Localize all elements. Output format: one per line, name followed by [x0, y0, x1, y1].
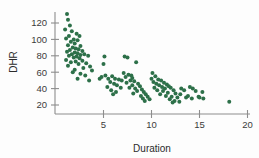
data-point — [102, 55, 106, 59]
data-point — [65, 50, 69, 54]
y-tick-label: 120 — [31, 17, 47, 28]
data-point — [124, 75, 128, 79]
data-point — [83, 73, 87, 77]
data-point — [125, 81, 129, 85]
data-point — [227, 100, 231, 104]
data-point — [174, 92, 178, 96]
chart-canvas: 20406080100120 5101520 Duration DHR — [0, 0, 259, 158]
data-point — [86, 54, 90, 58]
data-point — [108, 80, 112, 84]
data-point — [69, 60, 73, 64]
y-tick-label: 60 — [36, 67, 47, 78]
data-point — [122, 71, 126, 75]
data-point — [77, 62, 81, 66]
data-point — [77, 47, 81, 51]
data-point — [186, 94, 190, 98]
data-point — [68, 23, 72, 27]
data-point — [175, 96, 179, 100]
data-point — [66, 64, 70, 68]
data-point — [155, 88, 159, 92]
data-point — [150, 71, 154, 75]
data-point — [81, 66, 85, 70]
data-point — [198, 96, 202, 100]
data-point — [66, 18, 70, 22]
data-point — [90, 69, 94, 73]
data-point — [82, 52, 86, 56]
data-point — [100, 75, 104, 79]
data-point — [120, 78, 124, 82]
data-point — [168, 97, 172, 101]
scatter-chart: 20406080100120 5101520 Duration DHR — [0, 0, 259, 158]
data-point — [76, 38, 80, 42]
data-point — [78, 72, 82, 76]
y-tick-label: 100 — [31, 34, 47, 45]
data-point — [67, 54, 71, 58]
data-point — [201, 96, 205, 100]
data-point — [105, 85, 109, 89]
y-tick-label: 20 — [36, 99, 47, 110]
x-tick-label: 10 — [146, 119, 157, 130]
data-point — [115, 83, 119, 87]
data-point — [76, 77, 80, 81]
data-point — [119, 86, 123, 90]
data-point — [111, 92, 115, 96]
data-point — [126, 55, 130, 59]
data-point — [148, 97, 152, 101]
data-point — [158, 92, 162, 96]
data-point — [194, 89, 198, 93]
data-point — [177, 100, 181, 104]
data-point — [102, 62, 106, 66]
data-point — [134, 60, 138, 64]
data-point — [161, 89, 165, 93]
data-point — [88, 64, 92, 68]
data-point — [80, 59, 84, 63]
y-axis-title: DHR — [8, 51, 19, 73]
data-point — [178, 92, 182, 96]
data-point — [200, 90, 204, 94]
data-point — [127, 86, 131, 90]
data-point — [70, 29, 74, 33]
data-point — [64, 37, 68, 41]
data-point — [131, 92, 135, 96]
data-point — [135, 89, 139, 93]
x-tick-label: 20 — [242, 119, 253, 130]
data-point — [66, 43, 70, 47]
data-point — [63, 28, 67, 32]
data-point — [171, 101, 175, 105]
data-point — [153, 74, 157, 78]
data-point — [71, 70, 75, 74]
data-point — [73, 42, 77, 46]
data-point — [128, 78, 132, 82]
data-point — [69, 40, 73, 44]
data-point — [78, 34, 82, 38]
data-point — [164, 94, 168, 98]
data-point — [65, 12, 69, 16]
data-point — [190, 96, 194, 100]
data-point — [109, 88, 113, 92]
data-point — [143, 99, 147, 103]
data-point — [113, 77, 117, 81]
data-point — [87, 78, 91, 82]
y-tick-label: 80 — [36, 50, 47, 61]
data-point — [84, 61, 88, 65]
data-point — [132, 79, 136, 83]
data-point — [103, 73, 107, 77]
y-tick-label: 40 — [36, 83, 47, 94]
x-tick-label: 5 — [101, 119, 106, 130]
x-tick-label: 15 — [194, 119, 205, 130]
data-point — [182, 88, 186, 92]
data-points-layer — [63, 12, 231, 105]
x-axis-ticks: 5101520 — [101, 110, 253, 130]
data-point — [64, 58, 68, 62]
data-point — [72, 55, 76, 59]
x-axis-title: Duration — [133, 143, 171, 154]
